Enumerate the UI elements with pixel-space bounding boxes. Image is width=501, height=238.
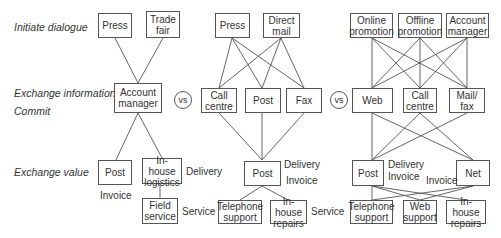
m1-label-service: Service [182, 206, 215, 217]
m3-node-mail-fax: Mail/fax [449, 88, 485, 113]
m3-node-web-support: Websupport [403, 200, 437, 224]
m2-node-direct-mail: Directmail [263, 13, 300, 38]
m2-node-post-mid: Post [245, 88, 281, 113]
m3-node-net: Net [456, 160, 490, 186]
stage-exchange-information: Exchange information [14, 87, 116, 99]
channel-diagram: Initiate dialogue Exchange information C… [0, 0, 501, 238]
stage-exchange-value: Exchange value [14, 166, 89, 178]
m2-node-inhouse-repairs: In-houserepairs [270, 200, 307, 224]
m1-label-invoice: Invoice [100, 190, 132, 201]
vs-separator-2: vs [330, 91, 348, 109]
m3-node-post: Post [352, 160, 384, 186]
m2-node-press: Press [215, 13, 250, 38]
m3-label-invoice-right: Invoice [426, 175, 458, 186]
m1-node-account-manager: Accountmanager [114, 83, 162, 113]
vs-separator-1: vs [174, 91, 192, 109]
m3-node-web: Web [352, 88, 393, 113]
m3-node-account-manager: Accountmanager [446, 13, 489, 38]
m2-node-fax: Fax [286, 88, 322, 113]
m2-label-invoice: Invoice [286, 175, 318, 186]
m1-node-field-service: Fieldservice [142, 198, 178, 224]
m2-node-call-centre: Callcentre [201, 88, 237, 113]
m1-node-trade-fair: Tradefair [146, 11, 180, 38]
m2-node-telephone-support: Telephonesupport [218, 200, 262, 224]
m2-label-delivery: Delivery [284, 159, 320, 170]
m3-node-inhouse-repairs: In-houserepairs [446, 200, 486, 224]
m3-label-delivery: Delivery [388, 159, 424, 170]
m1-node-inhouse-logistics: In-houselogistics [142, 158, 182, 184]
m1-label-delivery: Delivery [186, 166, 222, 177]
m2-label-service-right: Service [311, 206, 344, 217]
stage-commit: Commit [14, 105, 50, 117]
m3-node-call-centre: Callcentre [403, 88, 437, 113]
m3-label-invoice-left: Invoice [388, 171, 420, 182]
m3-node-online-promotion: Onlinepromotion [350, 13, 393, 38]
m3-node-offline-promotion: Offlinepromotion [398, 13, 442, 38]
m2-node-post-value: Post [244, 161, 281, 186]
stage-initiate-dialogue: Initiate dialogue [14, 21, 88, 33]
m3-node-telephone-support: Telephonesupport [350, 200, 393, 224]
m1-node-post: Post [98, 160, 132, 185]
m1-node-press: Press [98, 13, 132, 38]
